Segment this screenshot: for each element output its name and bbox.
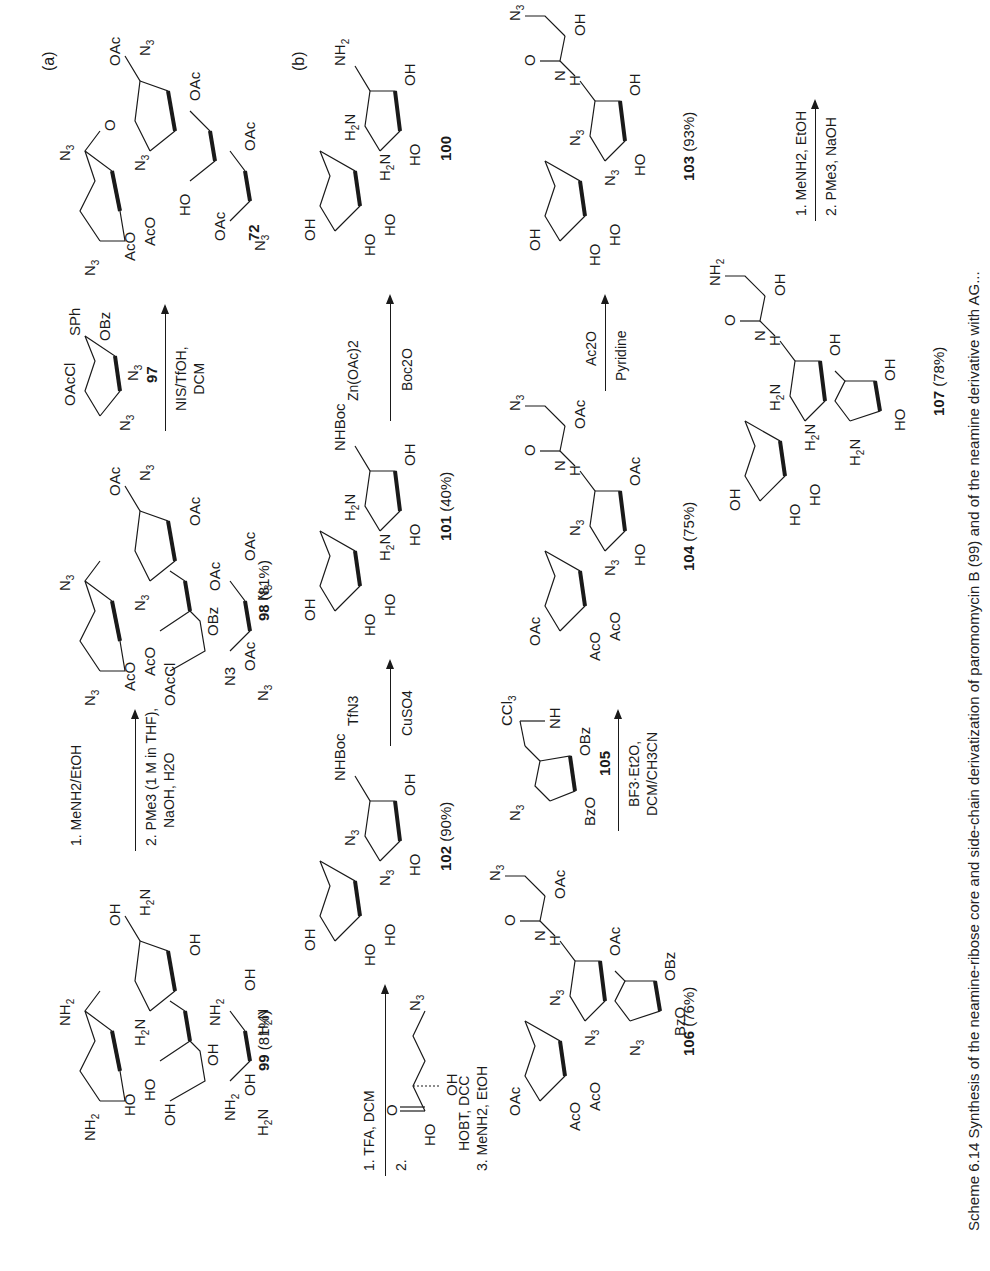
scheme-canvas: (a) N3 AcO AcO N3 O N3 OAc N3 HO OAc OAc… (0, 0, 990, 1271)
svg-text:N3: N3 (56, 144, 76, 161)
svg-text:HO: HO (806, 484, 823, 507)
reagents-b5: BF3·Et2O, DCM/CH3CN (625, 732, 661, 816)
svg-text:OAc: OAc (206, 561, 223, 591)
svg-text:N: N (551, 70, 568, 81)
structure-97: OAcCl SPh OBz N3 N3 (60, 296, 140, 436)
reagent-line: DCM/CH3CN (643, 732, 661, 816)
svg-text:OAc: OAc (606, 926, 623, 956)
compound-100-label: 100 (437, 136, 454, 161)
svg-text:H: H (766, 335, 783, 346)
svg-text:NH: NH (546, 707, 563, 729)
compound-103-label: 103 (93%) (680, 112, 697, 181)
svg-text:HO: HO (361, 234, 378, 257)
svg-text:O: O (721, 314, 738, 326)
svg-text:H2N: H2N (376, 154, 396, 181)
svg-text:OBz: OBz (576, 727, 593, 756)
svg-text:AcO: AcO (121, 662, 138, 691)
reaction-arrow-b4 (605, 296, 606, 391)
compound-104-label: 104 (75%) (680, 502, 697, 571)
svg-text:OH: OH (881, 359, 898, 382)
svg-text:HO: HO (786, 504, 803, 527)
svg-text:OAc: OAc (551, 869, 568, 899)
reagent-b1-below: Boc2O (398, 348, 416, 391)
svg-text:OAc: OAc (106, 36, 123, 66)
reaction-arrow-b5 (618, 711, 619, 831)
svg-text:N3: N3 (254, 684, 274, 701)
svg-text:NH2: NH2 (331, 38, 351, 66)
structure-106: OAc AcO AcO N3 N3 OAc H N O OAc N3 N3 Bz… (500, 841, 700, 1131)
svg-text:N3: N3 (566, 519, 586, 536)
svg-text:OH: OH (106, 904, 123, 927)
svg-text:H2N: H2N (131, 1019, 151, 1046)
donor-97: OAcCl SPh OBz N3 N3 (60, 296, 140, 436)
svg-text:OAc: OAc (241, 531, 258, 561)
svg-text:HO: HO (406, 524, 423, 547)
reaction-arrow-b6 (815, 101, 816, 221)
reagent-line: NIS/TfOH, (172, 346, 190, 411)
structure-99: NH2 HO HO OH NH2 H2N OH H2N OH NH2 OH NH… (40, 861, 270, 1141)
svg-text:H2N: H2N (766, 384, 786, 411)
svg-text:OH: OH (186, 934, 203, 957)
svg-text:N3: N3 (221, 667, 238, 686)
svg-text:N3: N3 (486, 864, 506, 881)
compound-98-label: 98 (81%) (255, 560, 272, 621)
svg-text:NH2: NH2 (206, 998, 226, 1026)
svg-text:NHBoc: NHBoc (331, 403, 348, 451)
svg-text:OAc: OAc (506, 1086, 523, 1116)
svg-text:N3: N3 (136, 39, 156, 56)
svg-text:OH: OH (241, 969, 258, 992)
svg-text:HO: HO (121, 1094, 138, 1117)
svg-text:O: O (101, 119, 118, 131)
compound-106-label: 106 (76%) (680, 987, 697, 1056)
svg-text:N3: N3 (56, 574, 76, 591)
svg-text:N3: N3 (124, 364, 144, 381)
svg-text:OH: OH (726, 489, 743, 512)
reagent-b3-line2: 2. (392, 1159, 410, 1171)
svg-text:O: O (521, 54, 538, 66)
svg-text:AcO: AcO (141, 217, 158, 246)
svg-text:OAc: OAc (211, 211, 228, 241)
svg-text:HO: HO (361, 944, 378, 967)
svg-text:OH: OH (301, 219, 318, 242)
svg-text:N: N (531, 930, 548, 941)
svg-text:OH: OH (626, 74, 643, 97)
svg-text:HO: HO (361, 614, 378, 637)
compound-97-label: 97 (143, 366, 160, 383)
svg-text:OH: OH (241, 1074, 258, 1097)
svg-text:N3: N3 (116, 414, 136, 431)
reagent-line: 1. MeNH2/EtOH (67, 745, 85, 846)
structure-102: OH HO HO N3 N3 HO OH NHBoc (295, 741, 435, 971)
svg-text:OAcCl: OAcCl (161, 663, 178, 706)
svg-text:HO: HO (141, 1079, 158, 1102)
svg-text:N3: N3 (81, 689, 101, 706)
svg-text:OH: OH (301, 929, 318, 952)
reaction-arrow-b1 (390, 296, 391, 421)
svg-text:N3: N3 (546, 989, 566, 1006)
svg-text:H2N: H2N (801, 424, 821, 451)
svg-text:NH2: NH2 (81, 1113, 101, 1141)
svg-text:OAcCl: OAcCl (61, 363, 78, 406)
compound-101-label: 101 (40%) (437, 472, 454, 541)
reagent-b3-line3: HOBT, DCC (455, 1076, 473, 1151)
reagents-a2-below: 2. PMe3 (1 M in THF), NaOH, H2O (142, 708, 178, 846)
svg-text:N3: N3 (131, 594, 151, 611)
svg-text:NH2: NH2 (56, 998, 76, 1026)
svg-text:O: O (501, 914, 518, 926)
reagents-a1: NIS/TfOH, DCM (172, 346, 208, 411)
svg-text:H2N: H2N (254, 1109, 274, 1136)
svg-text:OH: OH (526, 229, 543, 252)
compound-102-label: 102 (90%) (437, 802, 454, 871)
svg-text:N3: N3 (341, 829, 361, 846)
svg-text:SPh: SPh (66, 308, 83, 336)
svg-text:AcO: AcO (586, 1082, 603, 1111)
svg-text:OH: OH (826, 334, 843, 357)
reagent-line: DCM (190, 346, 208, 411)
svg-text:HO: HO (406, 144, 423, 167)
svg-text:AcO: AcO (586, 632, 603, 661)
reagent-b3-line4: 3. MeNH2, EtOH (473, 1066, 491, 1171)
svg-text:OAc: OAc (106, 466, 123, 496)
svg-text:NH2: NH2 (706, 258, 726, 286)
reagent-b6-line2: 2. PMe3, NaOH (822, 117, 840, 216)
svg-text:N3: N3 (406, 994, 426, 1011)
structure-105: N3 CCl3 NH OBz BzO (500, 691, 600, 841)
